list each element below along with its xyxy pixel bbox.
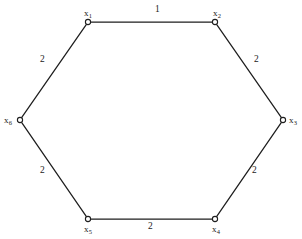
edge-x2-x3 xyxy=(217,25,281,118)
vertex-label-x5: x5 xyxy=(84,225,92,234)
vertex-node-x3 xyxy=(280,117,285,122)
edge-weight-x1-x2: 1 xyxy=(155,5,160,15)
vertex-node-x4 xyxy=(212,216,217,221)
graph-figure: x1x2x3x4x5x6 122222 xyxy=(0,0,302,239)
vertex-label-x4: x4 xyxy=(212,225,220,234)
edge-x6-x1 xyxy=(22,25,86,118)
edge-weight-x2-x3: 2 xyxy=(254,55,259,65)
edge-x3-x4 xyxy=(217,123,281,217)
vertex-label-subscript-x1: 1 xyxy=(89,12,92,19)
edge-x5-x6 xyxy=(22,123,86,217)
vertex-label-base-x4: x xyxy=(212,224,217,234)
vertices-group xyxy=(17,19,285,221)
vertex-label-subscript-x4: 4 xyxy=(217,228,220,235)
vertex-label-subscript-x3: 3 xyxy=(294,119,297,126)
vertex-node-x1 xyxy=(85,19,90,24)
edges-group xyxy=(22,22,281,219)
vertex-label-base-x6: x xyxy=(4,115,9,125)
vertex-label-base-x5: x xyxy=(84,224,89,234)
edge-weight-x4-x5: 2 xyxy=(148,222,153,232)
vertex-label-subscript-x5: 5 xyxy=(89,228,92,235)
edge-weight-x3-x4: 2 xyxy=(252,166,257,176)
vertex-label-subscript-x2: 2 xyxy=(218,12,221,19)
vertex-node-x6 xyxy=(17,117,22,122)
hexagon-graph-canvas xyxy=(0,0,302,239)
vertex-label-x6: x6 xyxy=(4,116,12,125)
vertex-node-x2 xyxy=(212,19,217,24)
vertex-label-base-x3: x xyxy=(289,115,294,125)
vertex-node-x5 xyxy=(85,216,90,221)
vertex-label-base-x1: x xyxy=(84,8,89,18)
vertex-label-base-x2: x xyxy=(213,8,218,18)
edge-weight-x5-x6: 2 xyxy=(40,166,45,176)
vertex-label-x2: x2 xyxy=(213,9,221,18)
vertex-label-x1: x1 xyxy=(84,9,92,18)
vertex-label-subscript-x6: 6 xyxy=(9,119,12,126)
vertex-label-x3: x3 xyxy=(289,116,297,125)
edge-weight-x6-x1: 2 xyxy=(40,55,45,65)
